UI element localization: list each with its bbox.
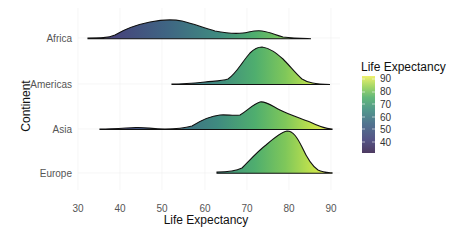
ridge-americas (172, 47, 330, 85)
legend-title: Life Expectancy (361, 60, 446, 74)
y-axis-labels: Africa Americas Asia Europe (30, 33, 72, 179)
category-label-europe: Europe (40, 168, 73, 179)
x-tick-30: 30 (72, 203, 84, 214)
legend-colorbar (362, 76, 375, 153)
category-label-asia: Asia (53, 124, 73, 135)
legend-tick-60: 60 (380, 112, 392, 123)
ridge-africa (88, 20, 311, 39)
x-axis-title: Life Expectancy (164, 213, 249, 227)
y-axis-title: Continent (19, 80, 33, 132)
x-tick-80: 80 (283, 203, 295, 214)
legend-tick-90: 90 (380, 73, 392, 84)
category-label-americas: Americas (30, 79, 72, 90)
legend-tick-80: 80 (380, 86, 392, 97)
category-label-africa: Africa (46, 33, 72, 44)
ridge-europe (217, 131, 332, 173)
ridgeline-chart: Africa Americas Asia Europe Continent 30… (0, 0, 459, 236)
x-tick-40: 40 (114, 203, 126, 214)
legend-tick-50: 50 (380, 124, 392, 135)
legend-tick-70: 70 (380, 99, 392, 110)
legend-tick-40: 40 (380, 137, 392, 148)
x-tick-90: 90 (325, 203, 337, 214)
color-legend: Life Expectancy 90 80 70 60 50 40 (361, 60, 446, 153)
ridge-asia (100, 102, 332, 130)
